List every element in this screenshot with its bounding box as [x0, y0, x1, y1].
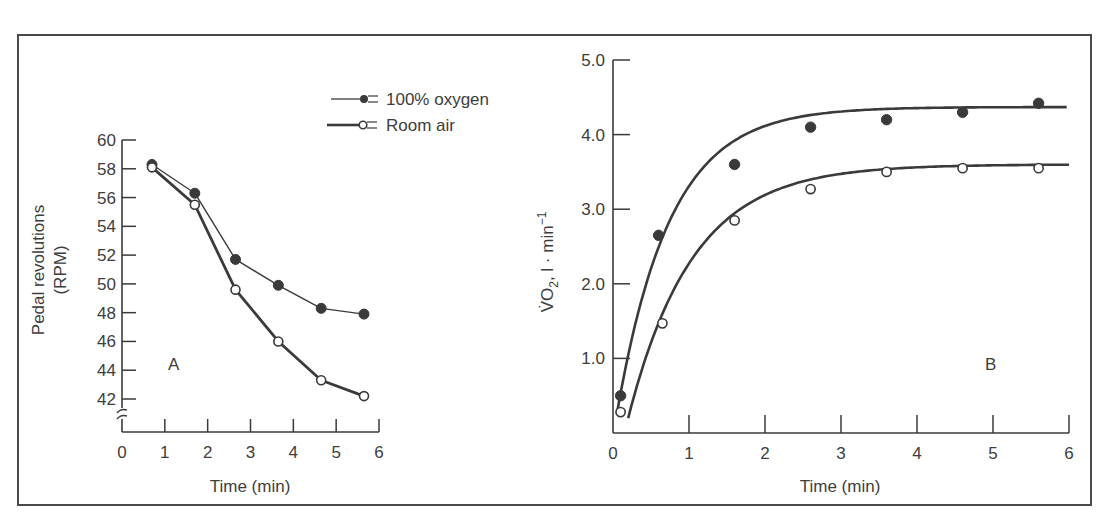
open-circle-marker-icon: [616, 408, 625, 417]
chart-a-y-axis-title-line2: (RPM): [51, 245, 70, 294]
filled-circle-marker-icon: [316, 303, 326, 313]
filled-circle-marker-icon: [190, 188, 200, 198]
axis-break-icon: [117, 409, 127, 413]
y-tick-label: 50: [97, 275, 116, 294]
x-tick-label: 1: [684, 444, 693, 463]
y-tick-label: 58: [97, 160, 116, 179]
y-tick-label: 42: [97, 390, 116, 409]
x-tick-label: 4: [289, 443, 298, 462]
x-tick-label: 0: [117, 443, 126, 462]
x-tick-label: 4: [912, 444, 921, 463]
x-tick-label: 6: [374, 443, 383, 462]
open-circle-marker-icon: [274, 337, 283, 346]
x-tick-label: 3: [246, 443, 255, 462]
y-tick-label: 44: [97, 361, 116, 380]
y-tick-label: 60: [97, 131, 116, 150]
legend-label-oxygen: 100% oxygen: [386, 90, 489, 109]
chart-b-ylabel-rest: , l · min: [538, 225, 557, 281]
chart-a-legend: 100% oxygen Room air: [327, 90, 489, 135]
filled-circle-marker-icon: [273, 280, 283, 290]
x-tick-label: 5: [331, 443, 340, 462]
chart-b: 01234561.02.03.04.05.0 Time (min) V̇O2, …: [535, 51, 1074, 496]
open-circle-marker-icon: [730, 216, 739, 225]
filled-circle-marker-icon: [359, 309, 369, 319]
filled-circle-marker-icon: [729, 159, 739, 169]
y-tick-label: 46: [97, 332, 116, 351]
chart-a-y-axis-title-line1: Pedal revolutions: [29, 205, 48, 335]
chart-b-ylabel-main: V̇O: [538, 288, 557, 313]
legend-item-oxygen: 100% oxygen: [331, 90, 489, 109]
fit-curve-room-air: [628, 165, 1069, 418]
open-circle-marker-icon: [190, 200, 199, 209]
y-tick-label: 48: [97, 304, 116, 323]
x-tick-label: 1: [160, 443, 169, 462]
x-tick-label: 0: [608, 444, 617, 463]
svg-text:V̇O2, l · min−1: V̇O2, l · min−1: [535, 211, 561, 312]
y-tick-label: 1.0: [581, 349, 605, 368]
legend-item-room-air: Room air: [327, 116, 455, 135]
open-circle-marker-icon: [806, 184, 815, 193]
y-tick-label: 52: [97, 246, 116, 265]
chart-b-y-axis-title: V̇O2, l · min−1: [535, 211, 561, 312]
filled-circle-marker-icon: [360, 95, 368, 103]
chart-a-x-axis-title: Time (min): [210, 477, 291, 496]
open-circle-marker-icon: [360, 392, 369, 401]
filled-circle-marker-icon: [231, 254, 241, 264]
y-tick-label: 5.0: [581, 51, 605, 70]
filled-circle-marker-icon: [615, 391, 625, 401]
fit-curve-oxygen: [617, 107, 1067, 414]
filled-circle-marker-icon: [1033, 98, 1043, 108]
open-circle-marker-icon: [317, 376, 326, 385]
open-circle-marker-icon: [359, 121, 367, 129]
open-circle-marker-icon: [147, 163, 156, 172]
chart-a-panel-label: A: [168, 355, 180, 374]
filled-circle-marker-icon: [805, 122, 815, 132]
chart-a-series: [147, 159, 369, 400]
filled-circle-marker-icon: [653, 230, 663, 240]
y-tick-label: 54: [97, 217, 116, 236]
chart-b-ylabel-sup: −1: [535, 211, 549, 225]
x-tick-label: 6: [1064, 444, 1073, 463]
filled-circle-marker-icon: [957, 107, 967, 117]
open-circle-marker-icon: [1034, 164, 1043, 173]
chart-a-y-axis-title: Pedal revolutions (RPM): [29, 205, 70, 335]
open-circle-marker-icon: [231, 285, 240, 294]
y-tick-label: 56: [97, 189, 116, 208]
chart-b-series: [615, 98, 1069, 418]
open-circle-marker-icon: [658, 319, 667, 328]
y-tick-label: 2.0: [581, 275, 605, 294]
x-tick-label: 2: [203, 443, 212, 462]
axis-break-icon: [117, 415, 127, 419]
x-tick-label: 5: [988, 444, 997, 463]
open-circle-marker-icon: [882, 167, 891, 176]
series-line-room-air: [152, 167, 364, 396]
chart-b-panel-label: B: [985, 355, 996, 374]
x-tick-label: 3: [836, 444, 845, 463]
x-tick-label: 2: [760, 444, 769, 463]
figure: 012345642444648505254565860 Time (min) P…: [0, 0, 1104, 525]
legend-label-room-air: Room air: [386, 116, 455, 135]
filled-circle-marker-icon: [881, 114, 891, 124]
series-line-oxygen: [152, 164, 364, 314]
y-tick-label: 3.0: [581, 200, 605, 219]
y-tick-label: 4.0: [581, 126, 605, 145]
chart-b-x-axis-title: Time (min): [800, 477, 881, 496]
open-circle-marker-icon: [958, 164, 967, 173]
chart-a: 012345642444648505254565860 Time (min) P…: [29, 90, 489, 496]
